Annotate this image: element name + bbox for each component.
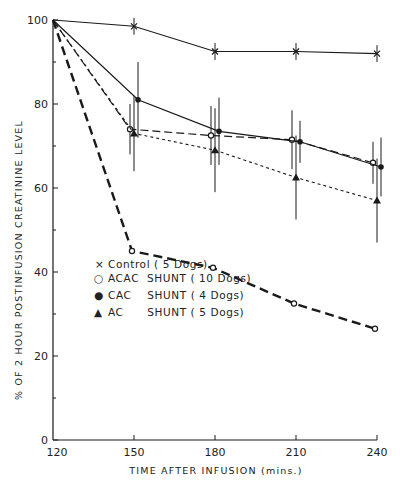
open-circle-marker-icon <box>208 133 213 138</box>
legend-symbol-control: × <box>95 258 104 270</box>
legend-label-control: Control ( 5 Dogs) <box>108 258 208 270</box>
legend-label-cac: CAC SHUNT ( 4 Dogs) <box>108 289 244 301</box>
series-line <box>53 20 373 163</box>
y-tick-label: 20 <box>34 350 48 363</box>
legend: × Control ( 5 Dogs) ○ ACAC SHUNT ( 10 Do… <box>94 258 251 318</box>
x-tick-label: 150 <box>124 446 145 459</box>
line-chart: 020406080100 120150180210240 % OF 2 HOUR… <box>0 0 400 485</box>
filled-circle-marker-icon <box>135 97 141 103</box>
triangle-marker-icon <box>292 174 300 181</box>
x-tick-label: 180 <box>205 446 226 459</box>
legend-symbol-acac: ○ <box>94 272 104 284</box>
filled-circle-marker-icon <box>378 164 384 170</box>
open-circle-marker-icon <box>291 301 296 306</box>
open-circle-marker-icon <box>372 326 377 331</box>
y-tick-label: 60 <box>34 182 48 195</box>
legend-symbol-cac: ● <box>94 289 104 301</box>
x-tick-label: 240 <box>367 446 388 459</box>
series-3 <box>53 20 384 196</box>
series-line <box>53 20 381 167</box>
axes <box>53 20 377 440</box>
series-0 <box>53 18 380 62</box>
legend-symbol-ac: ▲ <box>94 306 103 318</box>
filled-circle-marker-icon <box>216 129 222 135</box>
filled-circle-marker-icon <box>297 139 303 145</box>
y-tick-label: 100 <box>27 14 48 27</box>
x-axis-title: TIME AFTER INFUSION (mins.) <box>128 465 303 476</box>
y-axis-title: % OF 2 HOUR POSTINFUSION CREATININE LEVE… <box>13 120 24 400</box>
x-tick-label: 120 <box>47 446 68 459</box>
legend-label-acac: ACAC SHUNT ( 10 Dogs) <box>108 272 251 284</box>
x-tick-label: 210 <box>286 446 307 459</box>
x-ticks: 120150180210240 <box>47 435 388 459</box>
open-circle-marker-icon <box>129 248 134 253</box>
y-tick-label: 80 <box>34 98 48 111</box>
triangle-marker-icon <box>373 197 381 204</box>
plot-area <box>53 18 384 331</box>
triangle-marker-icon <box>211 146 219 153</box>
legend-label-ac: AC SHUNT ( 5 Dogs) <box>108 306 244 318</box>
open-circle-marker-icon <box>210 265 215 270</box>
y-tick-label: 40 <box>34 266 48 279</box>
